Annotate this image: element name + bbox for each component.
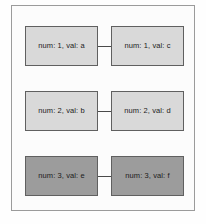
diagram-frame: num: 1, val: a num: 1, val: c num: 2, va… (11, 5, 195, 211)
node-pair-row-1: num: 1, val: a num: 1, val: c (12, 26, 196, 66)
connector-line-row-1 (98, 46, 111, 47)
connector-line-row-3 (98, 176, 111, 177)
connector-line-row-2 (98, 111, 111, 112)
node-num-3-val-e[interactable]: num: 3, val: e (25, 156, 98, 196)
node-label: num: 3, val: e (38, 172, 84, 180)
node-num-3-val-f[interactable]: num: 3, val: f (111, 156, 184, 196)
node-pair-row-2: num: 2, val: b num: 2, val: d (12, 91, 196, 131)
diagram-canvas: num: 1, val: a num: 1, val: c num: 2, va… (0, 0, 206, 224)
node-num-1-val-c[interactable]: num: 1, val: c (111, 26, 184, 66)
node-num-2-val-d[interactable]: num: 2, val: d (111, 91, 184, 131)
node-pair-row-3: num: 3, val: e num: 3, val: f (12, 156, 196, 196)
node-num-2-val-b[interactable]: num: 2, val: b (25, 91, 98, 131)
node-label: num: 1, val: a (38, 42, 84, 50)
node-label: num: 1, val: c (124, 42, 170, 50)
node-label: num: 2, val: d (124, 107, 170, 115)
node-num-1-val-a[interactable]: num: 1, val: a (25, 26, 98, 66)
node-label: num: 3, val: f (125, 172, 169, 180)
node-label: num: 2, val: b (38, 107, 84, 115)
